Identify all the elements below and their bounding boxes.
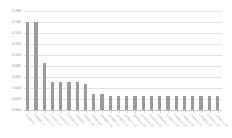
bar-slot	[148, 11, 156, 110]
bar-slot	[32, 11, 40, 110]
bar-slot	[82, 11, 90, 110]
bar-slot	[49, 11, 57, 110]
y-tick-label: 0.040	[12, 86, 21, 90]
bar	[76, 82, 79, 110]
bar-slot	[181, 11, 189, 110]
bar-slot	[173, 11, 181, 110]
bar	[109, 96, 112, 110]
bar-slot	[189, 11, 197, 110]
bar-slot	[98, 11, 106, 110]
bar	[191, 96, 194, 110]
bar-slot	[164, 11, 172, 110]
bar-slot	[214, 11, 222, 110]
y-tick-label: 0.160	[12, 20, 21, 24]
bar	[34, 22, 37, 110]
bar	[67, 82, 70, 110]
y-tick-label: 0.080	[12, 64, 21, 68]
bar	[51, 82, 54, 110]
bar	[199, 96, 202, 110]
bar-slot	[131, 11, 139, 110]
bar	[175, 96, 178, 110]
bar	[158, 96, 161, 110]
bar	[133, 96, 136, 110]
bar-slot	[74, 11, 82, 110]
bar-slot	[197, 11, 205, 110]
bar	[100, 94, 103, 111]
y-axis: 0.1800.1600.1400.1200.1000.0800.0600.040…	[0, 0, 23, 138]
bar-slot	[57, 11, 65, 110]
bar	[150, 96, 153, 110]
bar	[117, 96, 120, 110]
y-tick-label: 0.140	[12, 31, 21, 35]
bar-slot	[140, 11, 148, 110]
y-tick-label: 0.100	[12, 53, 21, 57]
bar	[125, 96, 128, 110]
bar	[208, 96, 211, 110]
x-axis-labels: Category 1Category 2Category 3Category 4…	[24, 113, 232, 138]
bar-series	[24, 11, 222, 110]
bar	[26, 22, 29, 110]
y-tick-label: 0.000	[12, 108, 21, 112]
y-tick-label: 0.180	[12, 9, 21, 13]
bar-slot	[41, 11, 49, 110]
bar	[59, 82, 62, 110]
bar-chart: 0.1800.1600.1400.1200.1000.0800.0600.040…	[0, 0, 232, 138]
bar-slot	[115, 11, 123, 110]
bar	[142, 96, 145, 110]
bar-slot	[206, 11, 214, 110]
bar	[84, 84, 87, 110]
bar	[166, 96, 169, 110]
bar	[43, 63, 46, 110]
bar-slot	[107, 11, 115, 110]
bar-slot	[65, 11, 73, 110]
y-tick-label: 0.020	[12, 97, 21, 101]
bar	[216, 96, 219, 110]
bar-slot	[24, 11, 32, 110]
bar	[183, 96, 186, 110]
bar-slot	[90, 11, 98, 110]
y-tick-label: 0.120	[12, 42, 21, 46]
y-tick-label: 0.060	[12, 75, 21, 79]
bar-slot	[156, 11, 164, 110]
bar-slot	[123, 11, 131, 110]
bar	[92, 94, 95, 111]
